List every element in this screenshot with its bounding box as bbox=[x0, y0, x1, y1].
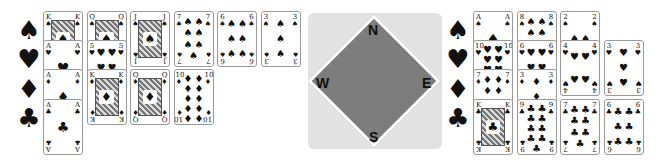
card-index: 7♣ bbox=[591, 102, 598, 116]
card-pips: ♠♠♠♠♠♠ bbox=[226, 16, 248, 62]
card-a-clubs[interactable]: A♣A♣A♣A♣♣ bbox=[43, 99, 83, 155]
left-suit-label-hearts: ♥ bbox=[16, 46, 42, 72]
card-index: 7♣ bbox=[562, 138, 569, 152]
card-3-spades[interactable]: 3♠3♠3♠3♠♠♠♠ bbox=[261, 11, 301, 67]
card-index: 7♦ bbox=[475, 72, 482, 86]
card-index: 6♣ bbox=[635, 102, 642, 116]
card-index: 3♥ bbox=[606, 79, 613, 93]
face-card-art: ♦ bbox=[138, 78, 162, 116]
card-index: 6♠ bbox=[248, 14, 255, 28]
card-index: 6♣ bbox=[606, 102, 613, 116]
card-index: 6♠ bbox=[219, 50, 226, 64]
card-index: 3♦ bbox=[519, 72, 526, 86]
card-pips: ♠♠♠ bbox=[270, 16, 292, 62]
card-index: 7♠ bbox=[176, 50, 183, 64]
card-3-hearts[interactable]: 3♥3♥3♥3♥♥♥♥ bbox=[604, 40, 644, 96]
card-index: 2♠ bbox=[591, 14, 598, 28]
card-6-clubs[interactable]: 6♣6♣6♣6♣♣♣♣♣♣♣ bbox=[604, 99, 644, 155]
left-suit-label-diamonds: ♦ bbox=[16, 76, 42, 102]
card-pips: ♣♣♣♣♣♣ bbox=[613, 104, 635, 150]
card-index: 7♣ bbox=[591, 138, 598, 152]
card-q-diamonds[interactable]: Q♦Q♦Q♦Q♦♦ bbox=[130, 69, 170, 125]
compass-south: S bbox=[369, 129, 378, 145]
card-pips: ♣♣♣♣♣♣♣ bbox=[569, 104, 591, 150]
card-index: 5♥ bbox=[89, 43, 96, 57]
card-pips: ♠♠♠♠♠♠♠ bbox=[183, 16, 205, 62]
card-index: 3♥ bbox=[635, 79, 642, 93]
card-index: 9♣ bbox=[519, 138, 526, 152]
card-7-spades[interactable]: 7♠7♠7♠7♠♠♠♠♠♠♠♠ bbox=[174, 11, 214, 67]
card-index: 6♣ bbox=[635, 138, 642, 152]
card-index: A♥ bbox=[74, 43, 81, 57]
card-index: A♠ bbox=[504, 14, 511, 28]
card-9-clubs[interactable]: 9♣9♣9♣9♣♣♣♣♣♣♣♣♣♣ bbox=[517, 99, 557, 155]
card-index: 9♣ bbox=[548, 138, 555, 152]
face-card-art: ♦ bbox=[95, 78, 119, 116]
card-index: 7♣ bbox=[562, 102, 569, 116]
card-index: 10♥ bbox=[475, 43, 482, 57]
card-index: 6♠ bbox=[248, 50, 255, 64]
card-index: 3♥ bbox=[606, 43, 613, 57]
compass-west: W bbox=[316, 75, 329, 91]
card-index: 3♠ bbox=[292, 50, 299, 64]
card-4-hearts[interactable]: 4♥4♥4♥4♥♥♥♥♥ bbox=[560, 40, 600, 96]
card-index: Q♦ bbox=[161, 72, 168, 86]
face-card-art: ♠ bbox=[138, 20, 162, 58]
card-index: 10♦ bbox=[205, 72, 212, 86]
card-index: 3♠ bbox=[263, 14, 270, 28]
card-index: 8♠ bbox=[519, 14, 526, 28]
card-index: 10♦ bbox=[176, 72, 183, 86]
card-10-diamonds[interactable]: 10♦10♦10♦10♦♦♦♦♦♦♦♦♦♦♦ bbox=[174, 69, 214, 125]
compass-north: N bbox=[368, 22, 378, 38]
card-index: J♠ bbox=[161, 14, 168, 28]
card-index: 3♦ bbox=[548, 72, 555, 86]
left-suit-label-spades: ♠ bbox=[16, 17, 42, 43]
card-index: Q♦ bbox=[161, 108, 168, 122]
face-card-art: ♣ bbox=[481, 108, 505, 146]
right-suit-label-spades: ♠ bbox=[445, 17, 471, 43]
card-index: 7♠ bbox=[205, 14, 212, 28]
card-index: 9♣ bbox=[519, 102, 526, 116]
card-6-spades[interactable]: 6♠6♠6♠6♠♠♠♠♠♠♠ bbox=[217, 11, 257, 67]
card-index: A♠ bbox=[475, 14, 482, 28]
card-index: K♣ bbox=[504, 138, 511, 152]
card-index: 6♠ bbox=[219, 14, 226, 28]
left-suit-label-clubs: ♣ bbox=[16, 105, 42, 131]
card-index: K♦ bbox=[118, 108, 125, 122]
card-index: K♦ bbox=[118, 72, 125, 86]
card-pips: ♣♣♣♣♣♣♣♣♣ bbox=[526, 104, 548, 150]
compass-east: E bbox=[422, 75, 431, 91]
card-index: 6♣ bbox=[606, 138, 613, 152]
card-index: A♦ bbox=[45, 72, 52, 86]
card-index: 5♥ bbox=[118, 43, 125, 57]
card-pips: ♥♥♥ bbox=[613, 45, 635, 91]
card-pips: ♦♦♦♦♦♦♦♦♦♦ bbox=[183, 74, 205, 120]
card-index: 7♠ bbox=[176, 14, 183, 28]
card-k-clubs[interactable]: K♣K♣K♣K♣♣ bbox=[473, 99, 513, 155]
card-index: K♣ bbox=[504, 102, 511, 116]
card-index: 4♥ bbox=[562, 43, 569, 57]
right-suit-label-diamonds: ♦ bbox=[445, 76, 471, 102]
card-index: A♣ bbox=[74, 102, 81, 116]
card-pips: ♣ bbox=[52, 104, 74, 150]
right-suit-label-hearts: ♥ bbox=[445, 46, 471, 72]
card-index: 4♥ bbox=[591, 79, 598, 93]
card-index: A♥ bbox=[45, 43, 52, 57]
card-k-diamonds[interactable]: K♦K♦K♦K♦♦ bbox=[87, 69, 127, 125]
card-index: 4♥ bbox=[562, 79, 569, 93]
card-index: 2♠ bbox=[562, 14, 569, 28]
card-index: 3♠ bbox=[292, 14, 299, 28]
card-index: 7♦ bbox=[504, 72, 511, 86]
card-index: J♠ bbox=[161, 50, 168, 64]
card-index: 6♥ bbox=[548, 43, 555, 57]
card-index: 3♠ bbox=[263, 50, 270, 64]
card-index: 10♥ bbox=[504, 43, 511, 57]
card-index: Q♠ bbox=[118, 14, 125, 28]
card-index: A♣ bbox=[45, 138, 52, 152]
card-j-spades[interactable]: J♠J♠J♠J♠♠ bbox=[130, 11, 170, 67]
card-7-clubs[interactable]: 7♣7♣7♣7♣♣♣♣♣♣♣♣ bbox=[560, 99, 600, 155]
card-pips: ♥♥♥♥ bbox=[569, 45, 591, 91]
card-index: A♦ bbox=[74, 72, 81, 86]
card-index: 7♠ bbox=[205, 50, 212, 64]
card-index: 10♦ bbox=[205, 108, 212, 122]
